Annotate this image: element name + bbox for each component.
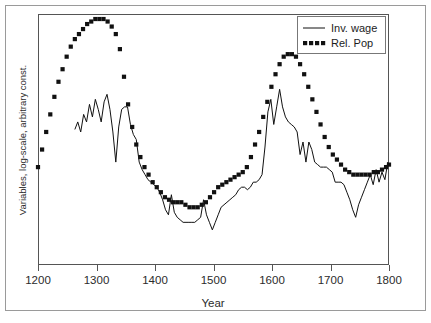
series-marker	[257, 130, 261, 134]
legend-marker	[309, 41, 313, 45]
series-marker	[220, 183, 224, 187]
series-marker	[323, 135, 327, 139]
series-marker	[314, 110, 318, 114]
series-marker	[335, 157, 339, 161]
series-marker	[351, 173, 355, 177]
series-marker	[359, 173, 363, 177]
series-marker	[261, 115, 265, 119]
series-marker	[232, 175, 236, 179]
x-axis-tick-labels: 1200130014001500160017001800	[25, 274, 402, 286]
series-marker	[269, 85, 273, 89]
series-marker	[331, 152, 335, 156]
series-marker	[364, 173, 368, 177]
series-marker	[249, 155, 253, 159]
series-marker	[339, 163, 343, 167]
legend-label-inv-wage: Inv. wage	[331, 22, 377, 34]
series-marker	[65, 55, 69, 59]
series-marker	[110, 24, 114, 28]
legend-marker	[315, 41, 319, 45]
series-marker	[106, 19, 110, 23]
series-marker	[241, 170, 245, 174]
legend-marker	[321, 41, 325, 45]
series-marker	[60, 67, 64, 71]
series-marker	[208, 195, 212, 199]
series-marker	[327, 145, 331, 149]
x-tick-label: 1300	[84, 274, 110, 286]
series-marker	[216, 185, 220, 189]
series-marker	[73, 37, 77, 41]
y-axis-title: Variables, log-scale, arbitrary const.	[17, 65, 28, 215]
series-marker	[294, 55, 298, 59]
series-marker	[69, 45, 73, 49]
x-tick-label: 1500	[201, 274, 227, 286]
series-marker	[318, 122, 322, 126]
series-marker	[282, 55, 286, 59]
series-marker	[114, 32, 118, 36]
series-marker	[224, 180, 228, 184]
chart-svg: 1200130014001500160017001800 Year Variab…	[0, 0, 431, 323]
series-marker	[192, 205, 196, 209]
series-marker	[245, 165, 249, 169]
legend-marker	[303, 41, 307, 45]
chart-legend[interactable]: Inv. wage Rel. Pop	[298, 17, 386, 54]
series-marker	[81, 27, 85, 31]
x-axis-title: Year	[201, 297, 224, 309]
series-marker	[286, 52, 290, 56]
series-marker	[175, 200, 179, 204]
series-marker	[122, 75, 126, 79]
series-marker	[97, 17, 101, 21]
series-marker	[228, 178, 232, 182]
x-tick-label: 1200	[25, 274, 51, 286]
series-marker	[310, 97, 314, 101]
series-marker	[290, 52, 294, 56]
series-marker	[306, 85, 310, 89]
series-marker	[237, 173, 241, 177]
series-marker	[48, 112, 52, 116]
series-marker	[302, 72, 306, 76]
series-marker	[298, 62, 302, 66]
series-marker	[77, 32, 81, 36]
series-marker	[118, 47, 122, 51]
x-tick-label: 1700	[318, 274, 344, 286]
series-marker	[89, 19, 93, 23]
series-inv-wage	[75, 89, 388, 230]
series-marker	[36, 165, 40, 169]
chart-plot-area: 1200130014001500160017001800 Year Variab…	[0, 0, 431, 323]
series-marker	[142, 165, 146, 169]
series-marker	[101, 17, 105, 21]
series-marker	[163, 195, 167, 199]
series-marker	[265, 100, 269, 104]
series-marker	[212, 190, 216, 194]
series-marker	[40, 147, 44, 151]
series-marker	[253, 142, 257, 146]
series-marker	[343, 168, 347, 172]
legend-label-rel-pop: Rel. Pop	[331, 37, 373, 49]
series-marker	[85, 22, 89, 26]
series-marker	[146, 173, 150, 177]
x-axis-ticks	[39, 265, 390, 271]
x-tick-label: 1800	[376, 274, 402, 286]
series-marker	[183, 203, 187, 207]
figure-container: 1200130014001500160017001800 Year Variab…	[0, 0, 431, 323]
series-marker	[52, 95, 56, 99]
series-marker	[196, 205, 200, 209]
x-tick-label: 1400	[142, 274, 168, 286]
series-marker	[93, 17, 97, 21]
series-marker	[44, 130, 48, 134]
series-marker	[179, 200, 183, 204]
series-marker	[347, 170, 351, 174]
series-marker	[278, 62, 282, 66]
series-marker	[187, 205, 191, 209]
series-marker	[355, 173, 359, 177]
x-tick-label: 1600	[259, 274, 285, 286]
series-marker	[273, 72, 277, 76]
series-marker	[126, 102, 130, 106]
series-marker	[56, 80, 60, 84]
